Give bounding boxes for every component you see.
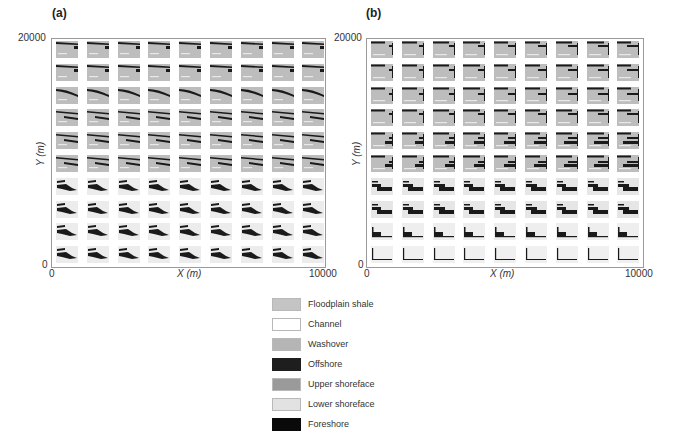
facies-thumbnail [179,87,201,104]
facies-thumbnail [302,109,324,126]
facies-thumbnail [556,41,578,58]
panel-a-y-max-tick: 20000 [18,32,46,43]
legend-item-floodplain-shale: Floodplain shale [272,298,472,312]
facies-thumbnail [302,223,324,240]
facies-thumbnail [525,64,547,81]
facies-thumbnail [494,41,516,58]
facies-thumbnail [302,178,324,195]
facies-thumbnail [525,87,547,104]
legend-item-washover: Washover [272,338,472,352]
facies-thumbnail [272,246,294,263]
facies-thumbnail [525,178,547,195]
facies-thumbnail [402,246,424,263]
facies-thumbnail [371,109,393,126]
facies-thumbnail [272,155,294,172]
facies-thumbnail [118,109,140,126]
facies-thumbnail [556,109,578,126]
facies-thumbnail [494,246,516,263]
facies-thumbnail [241,155,263,172]
facies-thumbnail [494,155,516,172]
facies-thumbnail [87,41,109,58]
facies-thumbnail [433,246,455,263]
panel-a-plot-area [51,38,326,268]
facies-thumbnail [617,132,639,149]
panel-b-x-max-tick: 10000 [625,268,653,279]
facies-thumbnail [87,64,109,81]
facies-thumbnail [302,132,324,149]
facies-thumbnail [371,87,393,104]
facies-thumbnail [87,109,109,126]
facies-thumbnail [525,201,547,218]
facies-thumbnail [494,64,516,81]
facies-thumbnail [463,201,485,218]
facies-thumbnail [241,64,263,81]
facies-thumbnail [433,223,455,240]
facies-thumbnail [87,132,109,149]
facies-thumbnail [494,201,516,218]
facies-thumbnail [433,87,455,104]
facies-thumbnail [433,201,455,218]
facies-thumbnail [433,132,455,149]
facies-thumbnail [87,201,109,218]
legend-label: Channel [308,318,342,331]
facies-thumbnail [241,132,263,149]
facies-thumbnail [587,41,609,58]
facies-thumbnail [587,201,609,218]
facies-thumbnail [494,109,516,126]
facies-thumbnail [179,64,201,81]
facies-thumbnail [402,155,424,172]
legend-label: Washover [308,338,348,351]
facies-thumbnail [302,41,324,58]
facies-thumbnail [56,223,78,240]
facies-thumbnail [272,201,294,218]
facies-thumbnail [371,41,393,58]
facies-thumbnail [302,64,324,81]
facies-thumbnail [463,155,485,172]
panel-a-y-axis-label: Y (m) [35,142,46,166]
facies-thumbnail [587,155,609,172]
facies-thumbnail [556,246,578,263]
foreshore-swatch [272,418,301,431]
facies-thumbnail [617,178,639,195]
facies-thumbnail [148,132,170,149]
facies-thumbnail [272,223,294,240]
panel-b-y-max-tick: 20000 [334,32,362,43]
facies-thumbnail [402,201,424,218]
panel-a-x-min-tick: 0 [49,268,55,279]
facies-thumbnail [587,178,609,195]
facies-thumbnail [525,155,547,172]
legend-label: Floodplain shale [308,298,374,311]
upper-shoreface-swatch [272,378,301,391]
facies-thumbnail [148,223,170,240]
panel-b-label: (b) [366,6,381,20]
panel-a-x-axis-label: X (m) [177,268,201,279]
facies-thumbnail [241,41,263,58]
facies-thumbnail [494,223,516,240]
legend-label: Lower shoreface [308,398,375,411]
legend-item-offshore: Offshore [272,358,472,372]
facies-thumbnail [148,201,170,218]
facies-thumbnail [118,41,140,58]
facies-thumbnail [525,109,547,126]
facies-thumbnail [56,132,78,149]
facies-thumbnail [148,109,170,126]
facies-thumbnail [402,109,424,126]
facies-thumbnail [463,64,485,81]
facies-thumbnail [371,223,393,240]
facies-thumbnail [179,201,201,218]
facies-thumbnail [210,132,232,149]
facies-thumbnail [210,87,232,104]
facies-thumbnail [556,64,578,81]
facies-thumbnail [87,223,109,240]
offshore-swatch [272,358,301,371]
facies-thumbnail [587,109,609,126]
facies-thumbnail [402,64,424,81]
facies-thumbnail [56,155,78,172]
facies-thumbnail [148,41,170,58]
facies-thumbnail [463,132,485,149]
facies-thumbnail [433,41,455,58]
facies-thumbnail [525,132,547,149]
facies-thumbnail [87,178,109,195]
facies-thumbnail [241,109,263,126]
facies-thumbnail [587,64,609,81]
